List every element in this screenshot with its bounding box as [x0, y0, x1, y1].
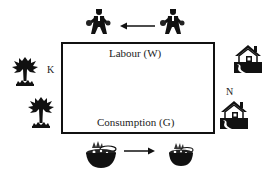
consumption-label: Consumption (G): [97, 116, 174, 128]
arrow-left-icon: [120, 22, 156, 30]
house-icon: [218, 98, 250, 130]
worker-icon: [160, 8, 186, 36]
labour-label: Labour (W): [109, 47, 161, 59]
arrow-right-icon: [124, 147, 156, 155]
house-icon: [232, 42, 264, 74]
food-basket-icon: [84, 140, 118, 170]
capital-label: K: [47, 65, 54, 75]
worker-icon: [86, 8, 112, 36]
tree-icon: [10, 55, 40, 87]
tree-icon: [26, 95, 56, 129]
food-basket-icon: [167, 142, 195, 168]
land-label: N: [226, 87, 233, 97]
